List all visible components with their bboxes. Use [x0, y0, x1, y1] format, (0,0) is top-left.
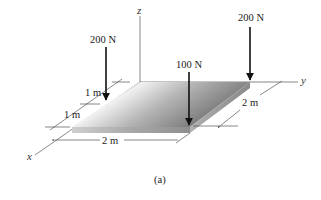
force-right-label: 200 N [238, 12, 264, 23]
force-right: 200 N [238, 12, 264, 80]
plate-force-diagram: z x y 1 m 1 m 2 m 2 m 200 N 10 [0, 0, 321, 200]
dim-x-second: 1 m [64, 109, 80, 120]
dimension-length: 2 m [55, 133, 190, 146]
plate-front-edge [72, 127, 190, 133]
force-left-label: 200 N [90, 34, 116, 45]
dim-x-first: 1 m [85, 87, 101, 98]
force-middle-label: 100 N [176, 59, 202, 70]
dim-width: 2 m [242, 97, 258, 108]
z-axis-label: z [136, 4, 142, 16]
x-axis-label: x [26, 150, 32, 162]
y-axis-label: y [300, 74, 306, 86]
figure-caption: (a) [154, 174, 166, 186]
dim-length: 2 m [102, 135, 118, 146]
